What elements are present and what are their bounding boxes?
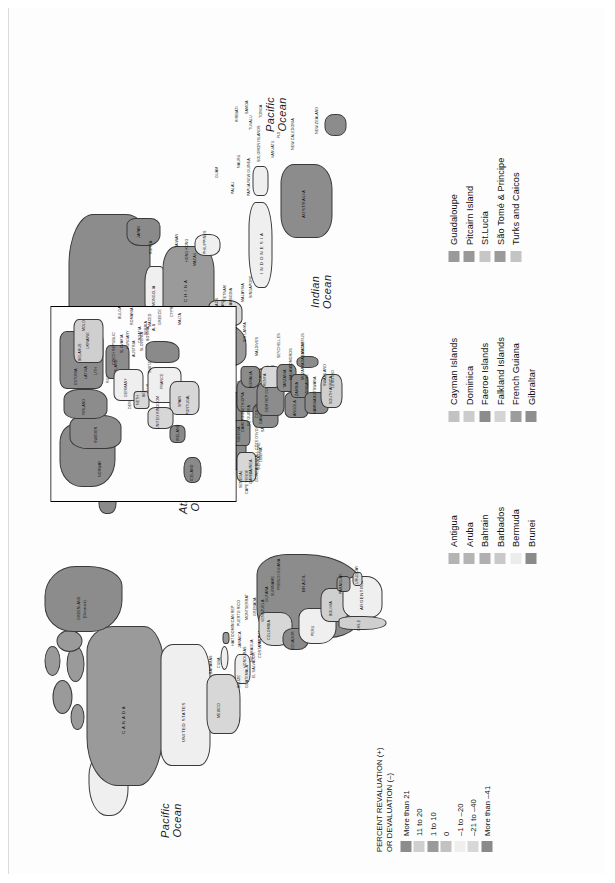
territory-item-label: French Guiana: [510, 343, 520, 405]
map-label-vietnam: VIETNAM: [222, 285, 226, 302]
inset-label-belarus: BELARUS: [77, 343, 81, 361]
map-label-tanzania: TANZANIA: [282, 370, 286, 388]
map-label-tonga: TONGA: [258, 105, 262, 118]
value-legend: PERCENT REVALUATION (+) OR DEVALUATION (…: [374, 747, 492, 852]
land-mexico: [206, 674, 240, 734]
inset-label-slovakia: SLOVAKIA: [119, 335, 123, 353]
map-label-vanuatu: VANUATU: [270, 141, 274, 158]
map-label-philippines: PHILIPPINES: [202, 231, 206, 255]
territory-item-swatch: [525, 553, 536, 564]
territory-item-label: St.Lucia: [479, 211, 489, 245]
map-label-swaziland: SWAZILAND: [322, 364, 326, 386]
map-label-puerto-rico: PUERTO RICO: [236, 600, 240, 626]
map-label-papua-new-guinea: PAPUA NEW GUINEA: [246, 158, 250, 196]
territory-item-row: Guadaloupe: [447, 157, 460, 262]
map-label-korea: KOREA: [148, 241, 152, 254]
territory-item-row: St.Lucia: [478, 157, 491, 262]
territory-item-row: Bahrain: [478, 507, 491, 564]
map-label-sri-lanka: SRI LANKA: [242, 322, 246, 342]
map-label-paraguay: PARAGUAY: [338, 574, 342, 594]
territory-item-row: Cayman Islands: [447, 337, 460, 422]
territory-legend-column-3: GuadaloupePitcairn IslandSt.LuciaSão Tom…: [444, 157, 522, 262]
map-label-brazil: BRAZIL: [300, 574, 305, 592]
territory-item-label: Cayman Islands: [448, 338, 458, 405]
land-arctic-island-b: [44, 646, 60, 676]
value-legend-item-label: –21 to –40: [468, 799, 477, 836]
territory-item-label: São Tomé & Principe: [495, 157, 505, 245]
inset-label-maced: MACED: [147, 313, 151, 327]
map-label-peru: PERU: [310, 626, 314, 636]
value-legend-item-swatch: [400, 841, 411, 852]
inset-label-alb: ALB: [151, 324, 155, 331]
value-legend-item-label: 1 to 10: [428, 812, 437, 836]
territory-item-swatch: [448, 553, 459, 564]
value-legend-item-row: –21 to –40: [467, 747, 479, 852]
map-label-venezuela: VENEZUELA: [260, 600, 264, 622]
map-label-fiji: FIJI: [276, 132, 280, 138]
map-label-nicaragua: NICARAGUA: [249, 640, 253, 662]
territory-item-swatch: [494, 553, 505, 564]
map-label-senegal: SENEGAL: [238, 470, 242, 488]
map-label-mexico: MEXICO: [216, 703, 220, 718]
map-label-australia: AUSTRALIA: [300, 190, 305, 218]
map-label-bolivia: BOLIVIA: [328, 601, 332, 616]
map-label-kenya: KENYA: [262, 373, 266, 386]
land-arctic-island-c: [70, 704, 84, 730]
value-legend-item-row: More than 21: [399, 747, 411, 852]
ocean-label-pacific-west: Pacific Ocean: [158, 803, 183, 838]
territory-item-row: Falkland Islands: [493, 337, 506, 422]
inset-label-den: DEN: [127, 401, 131, 409]
value-legend-title-line1: PERCENT REVALUATION (+): [374, 747, 384, 852]
territory-legend-rows-3: GuadaloupePitcairn IslandSt.LuciaSão Tom…: [447, 157, 522, 262]
territory-legend-column-1: AntiguaArubaBahrainBarbadosBermudaBrunei: [444, 507, 537, 564]
value-legend-item-swatch: [481, 841, 492, 852]
inset-label-hungary: HUNGARY: [125, 330, 129, 349]
map-label-greenland-denmark: (Denmark): [82, 600, 86, 618]
territory-item-label: Faeroe Islands: [479, 343, 489, 405]
map-label-lesotho: LESOTHO: [330, 370, 334, 388]
ocean-label-pacific-east: Pacific Ocean: [263, 97, 288, 132]
inset-label-iceland: ICELAND: [189, 465, 193, 481]
inset-label-sweden: SWEDEN: [93, 427, 97, 444]
map-label-cameroon: CAMEROON: [240, 410, 244, 432]
land-philippines: [194, 234, 220, 256]
territory-item-label: Aruba: [464, 522, 474, 547]
ocean-label-indian: Indian Ocean: [308, 275, 333, 309]
inset-label-ireland: IRELAND: [175, 425, 179, 441]
inset-label-united-kingdom: UNITED KINGDOM: [155, 396, 159, 429]
value-legend-item-label: More than –41: [482, 786, 491, 836]
map-label-jamaica: JAMAICA: [237, 632, 241, 648]
map-label-comoros: COMOROS: [288, 348, 292, 368]
territory-item-row: French Guiana: [509, 337, 522, 422]
map-label-ethiopia: ETHIOPIA: [240, 392, 244, 410]
map-label-zimbabwe: ZIMBABWE: [304, 374, 308, 394]
map-label-honduras: HONDURAS: [242, 646, 246, 668]
territory-item-swatch: [510, 411, 521, 422]
territory-item-label: Gibraltar: [526, 369, 536, 405]
inset-label-estonia: ESTONIA: [73, 368, 77, 385]
inset-label-latvia: LATVIA: [83, 366, 87, 379]
territory-item-swatch: [463, 251, 474, 262]
map-label-mongolia: MONGOLIA: [151, 286, 155, 306]
map-label-cuba: CUBA: [216, 658, 220, 668]
inset-label-lith: LITH: [93, 367, 97, 375]
map-label-eq-guinea: EQ GUINEA: [246, 405, 250, 426]
value-legend-item-label: –1 to –20: [455, 803, 464, 836]
inset-label-portugal: PORTUGAL: [185, 394, 189, 415]
inset-label-serbia: SERBIA: [143, 321, 147, 335]
map-label-zambia: ZAMBIA: [294, 382, 298, 396]
inset-label-greece: GREECE: [157, 309, 161, 325]
territory-item-row: Bermuda: [509, 507, 522, 564]
territory-item-label: Bermuda: [510, 509, 520, 547]
map-label-belize: BELIZE: [236, 675, 240, 688]
territory-item-row: Turks and Caicos: [509, 157, 522, 262]
map-label-solomon-islands: SOLOMON ISLANDS: [256, 125, 260, 162]
map-label-guinea: GUINEA: [248, 460, 252, 475]
figure-border: Pacific Ocean Pacific Ocean Atlantic Oce…: [8, 8, 605, 874]
territory-legend-rows-2: Cayman IslandsDominicaFaeroe IslandsFalk…: [447, 337, 538, 422]
inset-label-switz: SWITZ: [147, 361, 151, 373]
map-label-montserrat: MONTSERRAT: [244, 594, 248, 620]
map-label-malaysia: MALAYSIA: [240, 283, 244, 302]
map-label-suriname: SURINAME: [270, 576, 274, 596]
territory-item-row: Pitcairn Island: [462, 157, 475, 262]
